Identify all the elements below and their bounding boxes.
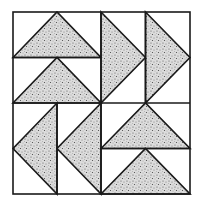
goose-tr-2 (146, 12, 191, 103)
goose-tr-1 (101, 12, 146, 103)
goose-bl-1 (13, 103, 57, 194)
goose-tl-1 (13, 12, 101, 58)
quilt-block (0, 0, 200, 208)
goose-bl-2 (57, 103, 101, 194)
goose-br-1 (101, 103, 190, 149)
goose-br-2 (101, 149, 190, 195)
goose-tl-2 (13, 58, 101, 104)
